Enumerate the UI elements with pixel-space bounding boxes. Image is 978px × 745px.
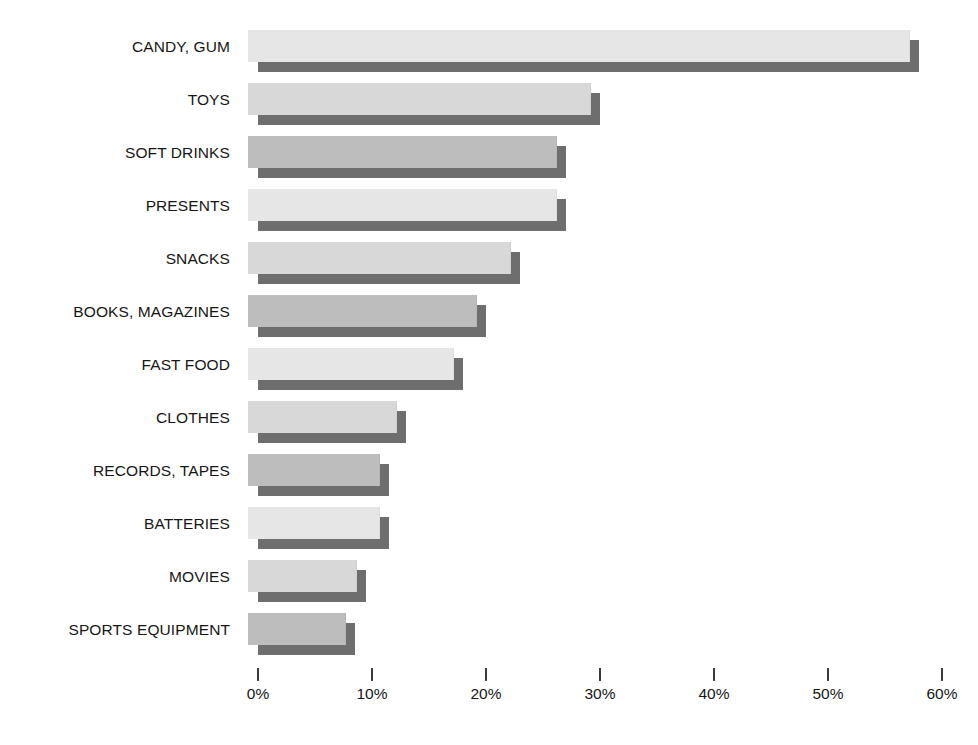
x-axis-tick [713, 668, 715, 681]
bar-category-label: CLOTHES [0, 410, 230, 426]
bar-category-label: MOVIES [0, 569, 230, 585]
x-axis-tick [485, 668, 487, 681]
bar[interactable] [248, 136, 566, 178]
x-axis-tick [257, 668, 259, 681]
bar[interactable] [248, 454, 389, 496]
bar-row: SOFT DRINKS [0, 126, 978, 179]
bar[interactable] [248, 401, 406, 443]
bar-face [248, 136, 557, 168]
bar-face [248, 507, 380, 539]
x-axis-tick-label: 0% [218, 686, 298, 702]
bar-face [248, 295, 477, 327]
bar-face [248, 560, 357, 592]
plot-area: CANDY, GUMTOYSSOFT DRINKSPRESENTSSNACKSB… [0, 0, 978, 680]
x-axis-tick [371, 668, 373, 681]
x-axis-tick-label: 30% [560, 686, 640, 702]
bar-face [248, 30, 910, 62]
bar-category-label: SPORTS EQUIPMENT [0, 622, 230, 638]
bar[interactable] [248, 348, 463, 390]
bar-face [248, 613, 346, 645]
bar-row: TOYS [0, 73, 978, 126]
bar-face [248, 83, 591, 115]
bar-row: CANDY, GUM [0, 20, 978, 73]
x-axis-tick-label: 10% [332, 686, 412, 702]
x-axis-tick [599, 668, 601, 681]
x-axis-tick-label: 60% [902, 686, 978, 702]
bar-face [248, 242, 511, 274]
bar-category-label: BOOKS, MAGAZINES [0, 304, 230, 320]
bar-face [248, 348, 454, 380]
bar-face [248, 454, 380, 486]
bar-row: SNACKS [0, 232, 978, 285]
bar-category-label: FAST FOOD [0, 357, 230, 373]
bar[interactable] [248, 189, 566, 231]
bar[interactable] [248, 295, 486, 337]
bar[interactable] [248, 613, 355, 655]
bar-category-label: SOFT DRINKS [0, 145, 230, 161]
bar-category-label: BATTERIES [0, 516, 230, 532]
bar-face [248, 189, 557, 221]
bar-chart: CANDY, GUMTOYSSOFT DRINKSPRESENTSSNACKSB… [0, 0, 978, 745]
x-axis-tick [827, 668, 829, 681]
x-axis-tick-label: 50% [788, 686, 868, 702]
bar-category-label: TOYS [0, 92, 230, 108]
bar-row: CLOTHES [0, 391, 978, 444]
bar-category-label: SNACKS [0, 251, 230, 267]
bar[interactable] [248, 30, 919, 72]
x-axis: 0%10%20%30%40%50%60% [0, 668, 978, 738]
bar-row: SPORTS EQUIPMENT [0, 603, 978, 656]
bar-row: BATTERIES [0, 497, 978, 550]
bar-row: FAST FOOD [0, 338, 978, 391]
bar-category-label: CANDY, GUM [0, 39, 230, 55]
bar[interactable] [248, 83, 600, 125]
x-axis-tick [941, 668, 943, 681]
bar-row: PRESENTS [0, 179, 978, 232]
bar[interactable] [248, 242, 520, 284]
bar-row: RECORDS, TAPES [0, 444, 978, 497]
bar-category-label: RECORDS, TAPES [0, 463, 230, 479]
bar-category-label: PRESENTS [0, 198, 230, 214]
bar-face [248, 401, 397, 433]
bar-row: BOOKS, MAGAZINES [0, 285, 978, 338]
bar-row: MOVIES [0, 550, 978, 603]
bar[interactable] [248, 560, 366, 602]
x-axis-tick-label: 40% [674, 686, 754, 702]
x-axis-tick-label: 20% [446, 686, 526, 702]
bar[interactable] [248, 507, 389, 549]
